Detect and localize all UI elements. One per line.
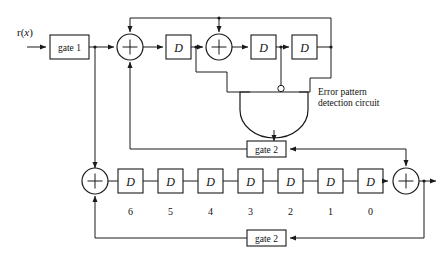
buffer-stage-number-0: 0	[368, 206, 373, 217]
syndrome-stage-1-label: D	[173, 41, 183, 55]
syndrome-stage-3-label: D	[299, 41, 309, 55]
buffer-stage-number-1: 1	[328, 206, 333, 217]
buffer-stage-number-2: 2	[288, 206, 293, 217]
buffer-stage-3-label: D	[245, 175, 255, 189]
buffer-stage-2-label: D	[285, 175, 295, 189]
buffer-stage-6-label: D	[125, 175, 135, 189]
buffer-stage-4-label: D	[205, 175, 215, 189]
error-detection-label-line2: detection circuit	[318, 98, 380, 108]
gate2-bottom-label: gate 2	[255, 234, 278, 244]
buffer-stage-5-label: D	[165, 175, 175, 189]
buffer-adder-right	[393, 168, 419, 194]
gate1-output-wire	[89, 45, 114, 168]
buffer-adder-left	[82, 168, 108, 194]
gate2-bottom-output-wire	[95, 196, 247, 238]
buffer-stage-1-label: D	[325, 175, 335, 189]
error-detection-label-line1: Error pattern	[318, 87, 367, 97]
gate2-middle-output-wire	[130, 62, 247, 149]
buffer-stage-number-4: 4	[208, 206, 213, 217]
circuit-diagram: r(x) gate 1 D D D + Error pattern detect…	[0, 0, 447, 266]
wire-d2-to-d3	[276, 45, 289, 88]
input-signal-label: r(x)	[17, 26, 33, 39]
syndrome-stage-2-label: D	[258, 41, 268, 55]
syndrome-adder-1	[117, 34, 143, 60]
diagram-canvas: r(x) gate 1 D D D + Error pattern detect…	[0, 0, 447, 266]
gate2-middle-label: gate 2	[255, 145, 278, 155]
buffer-stage-number-6: 6	[128, 206, 133, 217]
buffer-stage-number-3: 3	[248, 206, 253, 217]
syndrome-adder-2	[206, 34, 232, 60]
wire-gate2mid-to-rightadder	[401, 149, 406, 166]
gate1-label: gate 1	[58, 43, 81, 53]
buffer-stage-0-label: D	[365, 175, 375, 189]
buffer-stage-number-5: 5	[168, 206, 173, 217]
